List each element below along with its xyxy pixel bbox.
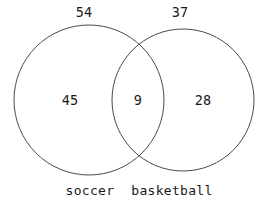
right-set-name-label: basketball — [131, 184, 212, 197]
venn-diagram-canvas: 54 37 45 9 28 soccer basketball — [0, 0, 270, 206]
intersection-region-value: 9 — [134, 94, 142, 108]
right-only-region-value: 28 — [195, 94, 212, 108]
right-set-total-label: 37 — [172, 6, 189, 20]
left-set-name-label: soccer — [66, 184, 115, 197]
left-only-region-value: 45 — [62, 94, 79, 108]
left-set-total-label: 54 — [76, 6, 93, 20]
